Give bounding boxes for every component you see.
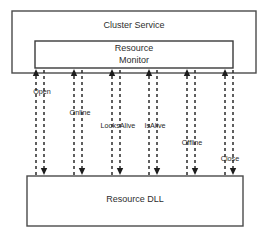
call-arrowhead-open [41, 168, 47, 175]
resource-monitor-label-line1: Resource [115, 43, 154, 53]
entry-point-label-online: Online [70, 108, 91, 117]
call-arrowhead-online [79, 168, 85, 175]
cluster-service-label: Cluster Service [103, 20, 164, 30]
call-arrowhead-looksalive [117, 168, 123, 175]
call-arrowhead-isalive [154, 168, 160, 175]
call-arrowhead-close [230, 168, 236, 175]
entry-point-label-isalive: IsAlive [144, 121, 165, 130]
entry-point-label-offline: Offline [182, 138, 203, 147]
diagram-canvas: Cluster Service Resource Monitor Resourc… [0, 0, 269, 237]
call-arrowhead-offline [192, 168, 198, 175]
entry-point-label-close: Close [221, 154, 239, 163]
entry-point-flows: OpenOnlineLooksAliveIsAliveOfflineClose [33, 69, 239, 175]
entry-point-label-open: Open [33, 87, 51, 96]
cluster-resource-diagram: Cluster Service Resource Monitor Resourc… [0, 0, 269, 237]
resource-monitor-label-line2: Monitor [119, 55, 149, 65]
resource-dll-label: Resource DLL [106, 194, 164, 204]
entry-point-label-looksalive: LooksAlive [101, 121, 136, 130]
